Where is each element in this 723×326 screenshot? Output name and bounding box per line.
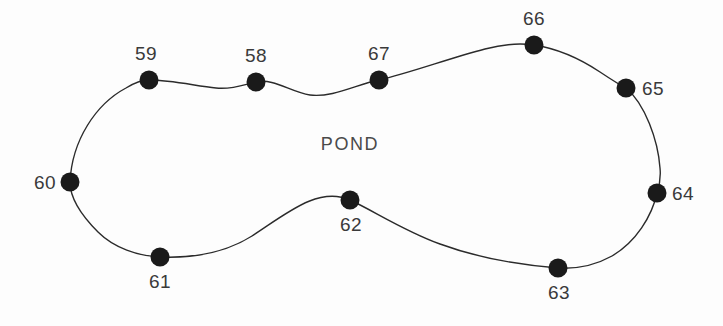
station-label-58: 58 [245, 45, 267, 66]
station-label-63: 63 [548, 282, 570, 303]
station-dot-66[interactable] [525, 36, 544, 55]
pond-diagram: 58 59 60 61 62 63 64 65 66 67 POND [0, 0, 723, 326]
station-dot-67[interactable] [370, 71, 389, 90]
station-dot-58[interactable] [247, 73, 266, 92]
station-dot-59[interactable] [140, 71, 159, 90]
pond-map-svg: 58 59 60 61 62 63 64 65 66 67 POND [0, 0, 723, 326]
station-markers-group: 58 59 60 61 62 63 64 65 66 67 [34, 8, 694, 303]
station-label-60: 60 [34, 172, 56, 193]
station-label-62: 62 [340, 214, 362, 235]
station-dot-63[interactable] [549, 259, 568, 278]
station-dot-61[interactable] [151, 248, 170, 267]
station-label-67: 67 [368, 43, 390, 64]
pond-shoreline-path [70, 44, 660, 268]
station-label-65: 65 [642, 78, 664, 99]
pond-area-label: POND [321, 134, 379, 154]
station-dot-62[interactable] [341, 191, 360, 210]
station-label-66: 66 [523, 8, 545, 29]
station-dot-64[interactable] [648, 184, 667, 203]
station-label-59: 59 [135, 43, 157, 64]
station-label-64: 64 [672, 183, 694, 204]
station-dot-60[interactable] [61, 173, 80, 192]
station-label-61: 61 [149, 271, 171, 292]
station-dot-65[interactable] [617, 79, 636, 98]
